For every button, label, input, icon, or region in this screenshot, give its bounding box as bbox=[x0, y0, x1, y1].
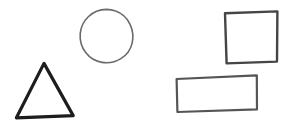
shapes-svg bbox=[0, 0, 290, 131]
sketch-canvas bbox=[0, 0, 290, 131]
